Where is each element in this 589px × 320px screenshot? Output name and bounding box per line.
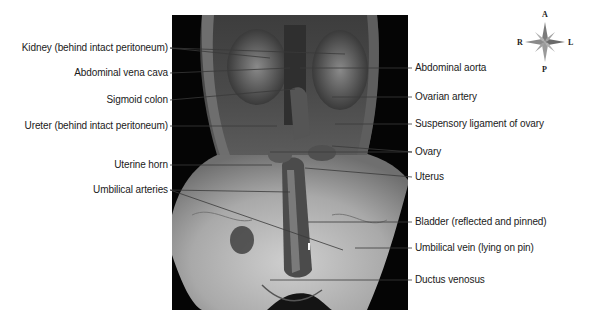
compass-anterior: A xyxy=(542,10,548,19)
compass-posterior: P xyxy=(542,65,547,74)
label-kidney: Kidney (behind intact peritoneum) xyxy=(22,42,168,54)
compass-rose-icon xyxy=(525,8,585,78)
label-ovarian-artery: Ovarian artery xyxy=(415,91,477,103)
label-suspensory-ligament: Suspensory ligament of ovary xyxy=(415,118,544,130)
label-ductus-venosus: Ductus venosus xyxy=(415,274,485,286)
label-ovary: Ovary xyxy=(415,146,441,158)
label-abdominal-aorta: Abdominal aorta xyxy=(415,62,486,74)
label-ureter: Ureter (behind intact peritoneum) xyxy=(25,120,168,132)
compass-right: R xyxy=(517,38,523,47)
label-uterine-horn: Uterine horn xyxy=(114,159,168,171)
compass-rose: A P R L xyxy=(525,8,585,78)
label-uterus: Uterus xyxy=(415,171,444,183)
label-bladder: Bladder (reflected and pinned) xyxy=(415,216,547,228)
label-sigmoid-colon: Sigmoid colon xyxy=(106,94,168,106)
dissection-photo xyxy=(172,15,408,310)
label-umbilical-arteries: Umbilical arteries xyxy=(93,184,168,196)
label-abdominal-vena-cava: Abdominal vena cava xyxy=(74,67,168,79)
compass-left: L xyxy=(568,38,573,47)
dissection-photo-graphic xyxy=(172,15,408,310)
anatomy-figure: Kidney (behind intact peritoneum) Abdomi… xyxy=(0,0,589,320)
label-umbilical-vein: Umbilical vein (lying on pin) xyxy=(415,242,534,254)
